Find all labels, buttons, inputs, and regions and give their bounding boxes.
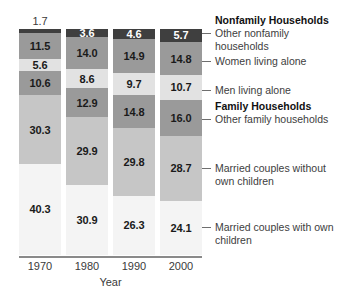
stacked-bar-chart: 1.711.55.610.630.340.33.614.08.612.929.9…	[0, 0, 340, 294]
x-tick-1990: 1990	[113, 260, 155, 273]
bar-segment: 3.6	[66, 29, 108, 37]
bar-segment: 5.7	[160, 29, 202, 42]
series-annotations: Nonfamily Households Other nonfamily hou…	[202, 0, 340, 294]
annotation-label: Other family households	[215, 113, 340, 126]
bar-segment: 28.7	[160, 136, 202, 201]
bar-segment-value: 10.7	[160, 82, 202, 93]
bar-segment: 14.9	[113, 39, 155, 73]
leader-line-icon	[202, 33, 211, 34]
annotation-label: Men living alone	[215, 84, 340, 97]
bar-column-2000: 5.714.810.716.028.724.1	[160, 29, 202, 255]
bar-segment: 14.8	[160, 42, 202, 75]
bar-segment-value: 40.3	[19, 204, 61, 215]
bar-segment-value: 12.9	[66, 97, 108, 108]
bar-segment-value: 14.0	[66, 47, 108, 58]
bar-segment: 12.9	[66, 88, 108, 117]
leader-line-icon	[202, 227, 211, 228]
plot-area: 1.711.55.610.630.340.33.614.08.612.929.9…	[19, 29, 202, 255]
annotation-label: Married couples without own children	[215, 162, 340, 187]
bar-segment: 30.9	[66, 185, 108, 255]
bar-segment-value: 29.9	[66, 146, 108, 157]
x-axis-line	[19, 256, 202, 258]
bar-segment-value: 3.6	[66, 29, 108, 37]
group-heading-nonfamily: Nonfamily Households	[215, 14, 340, 27]
bar-segment: 9.7	[113, 73, 155, 95]
x-axis-title: Year	[19, 276, 202, 289]
bar-segment-value: 1.7	[19, 16, 61, 27]
bar-segment-value: 24.1	[160, 222, 202, 233]
bar-segment: 4.6	[113, 29, 155, 39]
bar-segment: 30.3	[19, 95, 61, 163]
x-tick-2000: 2000	[160, 260, 202, 273]
bar-segment: 11.5	[19, 33, 61, 59]
bar-segment-value: 5.6	[19, 60, 61, 71]
leader-line-icon	[202, 119, 211, 120]
group-heading-family: Family Households	[215, 100, 340, 113]
bar-column-1980: 3.614.08.612.929.930.9	[66, 29, 108, 255]
bar-segment-value: 14.9	[113, 51, 155, 62]
bar-segment-value: 14.8	[160, 53, 202, 64]
annotation-label: Women living alone	[215, 55, 340, 68]
bar-segment: 29.9	[66, 117, 108, 185]
bar-segment-value: 28.7	[160, 163, 202, 174]
bar-segment: 10.7	[160, 75, 202, 99]
bar-segment-value: 10.6	[19, 78, 61, 89]
bar-column-1990: 4.614.99.714.829.826.3	[113, 29, 155, 255]
x-tick-1980: 1980	[66, 260, 108, 273]
bar-segment: 26.3	[113, 196, 155, 255]
annotation-label: Married couples with own children	[215, 221, 340, 246]
bar-segment-value: 4.6	[113, 29, 155, 39]
annotation-label: Other nonfamily households	[215, 27, 340, 52]
x-axis-tick-labels: 1970 1980 1990 2000	[19, 260, 202, 274]
bar-segment-value: 5.7	[160, 30, 202, 41]
bar-segment-value: 8.6	[66, 73, 108, 84]
x-tick-1970: 1970	[19, 260, 61, 273]
bar-segment: 5.6	[19, 59, 61, 72]
bar-segment-value: 9.7	[113, 78, 155, 89]
bar-segment: 10.6	[19, 71, 61, 95]
bar-column-1970: 1.711.55.610.630.340.3	[19, 29, 61, 255]
bar-segment-value: 30.3	[19, 124, 61, 135]
bar-segment: 16.0	[160, 100, 202, 136]
bar-segment-value: 29.8	[113, 157, 155, 168]
bar-segment: 40.3	[19, 164, 61, 255]
leader-line-icon	[202, 90, 211, 91]
bar-segment-value: 30.9	[66, 215, 108, 226]
bar-segment-value: 16.0	[160, 112, 202, 123]
bar-segment: 24.1	[160, 201, 202, 255]
bar-segment: 14.0	[66, 37, 108, 69]
leader-line-icon	[202, 168, 211, 169]
bar-segment-value: 14.8	[113, 106, 155, 117]
bar-segment-value: 26.3	[113, 220, 155, 231]
bar-segment: 29.8	[113, 128, 155, 195]
bar-segment: 14.8	[113, 95, 155, 128]
bar-segment-value: 11.5	[19, 40, 61, 51]
bar-segment: 8.6	[66, 69, 108, 88]
leader-line-icon	[202, 61, 211, 62]
